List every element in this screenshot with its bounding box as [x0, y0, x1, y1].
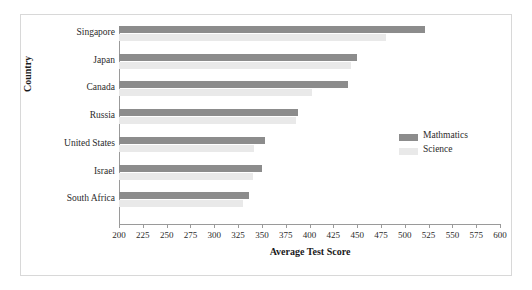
bar-mathmatics [119, 165, 262, 172]
x-tick-mark [286, 224, 287, 228]
bar-group: Canada [119, 81, 500, 109]
bar-mathmatics [119, 109, 298, 116]
legend-label: Science [423, 144, 453, 154]
legend-swatch [399, 134, 418, 141]
x-tick-mark [357, 224, 358, 228]
x-tick-mark [429, 224, 430, 228]
y-axis-title: Country [22, 56, 33, 92]
x-tick-mark [310, 224, 311, 228]
x-tick-mark [238, 224, 239, 228]
bar-science [119, 117, 296, 124]
bar-mathmatics [119, 192, 249, 199]
bar-science [119, 173, 253, 180]
x-tick-mark [167, 224, 168, 228]
chart-figure: Country 20022525027530032535037540042545… [0, 0, 532, 290]
legend-swatch [399, 148, 418, 155]
x-tick-mark [452, 224, 453, 228]
bar-science [119, 200, 243, 207]
y-category-label: Singapore [76, 27, 115, 37]
x-tick-mark [476, 224, 477, 228]
x-tick-mark [119, 224, 120, 228]
bar-science [119, 62, 351, 69]
y-category-label: United States [64, 138, 115, 148]
x-tick-mark [333, 224, 334, 228]
x-tick-mark [405, 224, 406, 228]
bar-group: Japan [119, 54, 500, 82]
x-axis-title: Average Test Score [119, 246, 501, 257]
x-tick-mark [500, 224, 501, 228]
x-tick-mark [381, 224, 382, 228]
bar-science [119, 89, 312, 96]
y-category-label: Israel [94, 166, 115, 176]
bar-group: Singapore [119, 26, 500, 54]
bar-science [119, 145, 254, 152]
x-tick-mark [262, 224, 263, 228]
bar-mathmatics [119, 26, 425, 33]
bar-mathmatics [119, 81, 348, 88]
bar-mathmatics [119, 54, 357, 61]
bar-science [119, 34, 386, 41]
plot-area: SingaporeJapanCanadaRussiaUnited StatesI… [119, 26, 500, 220]
x-tick-label: 600 [485, 230, 515, 240]
y-category-label: Japan [93, 55, 115, 65]
bar-group: South Africa [119, 192, 500, 220]
x-tick-mark [214, 224, 215, 228]
y-category-label: Russia [90, 110, 115, 120]
bar-group: Israel [119, 165, 500, 193]
y-category-label: South Africa [67, 193, 115, 203]
bar-mathmatics [119, 137, 265, 144]
y-category-label: Canada [87, 82, 116, 92]
x-tick-mark [143, 224, 144, 228]
legend-label: Mathmatics [423, 130, 468, 140]
x-tick-mark [190, 224, 191, 228]
